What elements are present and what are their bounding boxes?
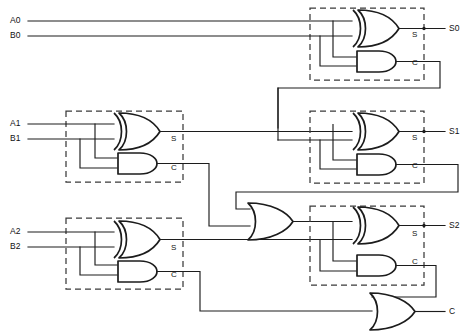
and-gate-ha3 [118,261,157,282]
and-gate-ha0 [357,51,396,72]
or-gate-carry-out [370,293,415,330]
and-gate-ha1 [118,153,157,174]
wire-ha2-b-tap-and [320,140,356,169]
circuit-diagram-canvas: A0 B0 A1 B1 A2 B2 S0 S1 S2 C S C S C S C… [0,0,476,333]
input-label-a0: A0 [10,16,21,25]
wire-a0-tap-and [333,21,356,57]
pin-label-carry-ha0: C [412,58,418,67]
output-label-s0: S0 [449,24,460,33]
output-label-s1: S1 [449,127,460,136]
junction-s0-boundary [422,27,425,30]
pin-label-sum-ha1: S [171,134,177,143]
and-gate-ha2 [357,154,396,175]
wire-a2-tap-and [95,232,117,265]
pin-label-carry-ha4: C [412,257,418,266]
pin-label-carry-ha2: C [412,161,418,170]
wire-ha4-a-tap-and [333,222,356,262]
input-label-b0: B0 [10,31,21,40]
wire-b2-tap-and [80,247,117,275]
output-label-s2: S2 [449,221,460,230]
pin-label-sum-ha0: S [412,30,418,39]
wire-ha4-b-tap-and [320,240,356,272]
junction-s1-boundary [422,130,425,133]
xor-gate-ha1-back-arc [114,113,122,150]
pin-label-sum-ha3: S [171,243,177,252]
xor-gate-ha2-back-arc [353,113,361,150]
or-gate-carry-mid [248,203,293,240]
output-label-carry: C [449,307,455,316]
input-label-a1: A1 [10,119,21,128]
xor-gate-ha3-back-arc [114,221,122,258]
pin-label-sum-ha4: S [412,229,418,238]
pin-label-carry-ha3: C [171,270,177,279]
and-gate-ha4 [357,255,396,276]
wire-and-ha3-out-to-or-out [157,272,372,312]
xor-gate-ha3 [119,221,160,258]
input-label-a2: A2 [10,227,21,236]
xor-gate-ha4-back-arc [353,207,361,244]
pin-label-sum-ha2: S [412,133,418,142]
pin-label-carry-ha1: C [171,163,177,172]
junction-s2-boundary [422,224,425,227]
xor-gate-ha0-back-arc [353,10,361,47]
xor-gate-ha0 [358,10,399,47]
wire-a1-tap-and [95,124,117,158]
schematic-svg [0,0,476,333]
wire-ha2-a-tap-and [333,125,356,161]
xor-gate-ha2 [358,113,399,150]
input-label-b1: B1 [10,134,21,143]
input-label-b2: B2 [10,242,21,251]
xor-gate-ha1 [119,113,160,150]
xor-gate-ha4 [358,207,399,244]
wire-b1-tap-and [80,139,117,168]
wire-b0-tap-and [320,36,356,66]
wire-and-ha2-out [236,165,458,210]
